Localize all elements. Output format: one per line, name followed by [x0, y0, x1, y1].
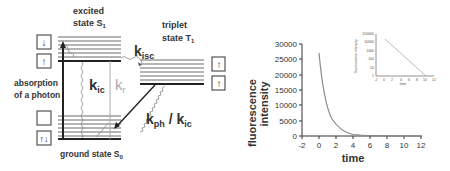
y-axis-label-line1: fluorescence	[246, 79, 258, 147]
spin-box-s0-lower: ↑↓	[37, 131, 51, 145]
svg-text:100: 100	[368, 57, 374, 61]
y-axis-label-line2: intensity	[258, 81, 270, 127]
kic-label: kic	[89, 76, 105, 95]
figure-canvas: excited state S1 triplet state T1 absorp…	[0, 0, 450, 171]
x-tick-label: -2	[298, 141, 306, 150]
kr-label: kr	[115, 76, 126, 95]
x-tick-label: 2	[334, 141, 339, 150]
spin-up-arrow-icon: ↑	[217, 59, 222, 70]
x-tick-label: 0	[317, 141, 322, 150]
y-ticks: 0 5000 10000 15000 20000 25000 30000	[275, 40, 302, 141]
spin-box-s1-upper: ↓	[37, 35, 51, 49]
absorption-label-2: of a photon	[14, 90, 60, 100]
inset-y-axis-label: fluorescence intensity	[354, 39, 358, 73]
inset-y-ticks: 1 10 100 1000 10000 100000	[362, 32, 374, 78]
x-axis-label: time	[342, 152, 365, 164]
s0-levels	[58, 116, 121, 139]
triplet-state-label: triplet	[162, 20, 187, 30]
ground-state-label: ground state S0	[60, 149, 124, 160]
inset-decay-line	[385, 39, 426, 76]
x-ticks: -2 0 2 4 6 8 10 12	[298, 136, 426, 150]
svg-text:-2: -2	[374, 78, 377, 82]
y-tick-label: 25000	[275, 55, 298, 64]
spin-down-arrow-icon: ↓	[42, 37, 47, 48]
y-tick-label: 5000	[279, 117, 297, 126]
y-tick-label: 10000	[275, 101, 298, 110]
spin-box-t1-lower: ↑	[212, 76, 225, 90]
x-tick-label: 10	[400, 141, 409, 150]
svg-text:6: 6	[408, 78, 410, 82]
excited-state-label: excited	[73, 6, 104, 16]
spin-pair-arrows-icon: ↑↓	[40, 134, 49, 144]
decay-chart: fluorescence intensity 0 5000 10000 1500…	[246, 40, 426, 164]
svg-text:2: 2	[391, 78, 393, 82]
svg-text:0: 0	[383, 78, 385, 82]
inset-x-axis-label: time	[400, 82, 407, 86]
inset-log-chart: fluorescence intensity 1 10 100 1000 100…	[354, 32, 436, 86]
kic-wavy-line	[81, 62, 83, 138]
x-tick-label: 4	[351, 141, 356, 150]
x-tick-label: 8	[385, 141, 390, 150]
y-tick-label: 0	[293, 132, 298, 141]
spin-up-arrow-icon: ↑	[217, 78, 222, 89]
spin-box-s1-lower: ↑	[37, 54, 51, 68]
spin-box-s0-upper	[37, 111, 51, 125]
y-tick-label: 20000	[275, 71, 298, 80]
y-tick-label: 15000	[275, 86, 298, 95]
svg-text:10000: 10000	[364, 40, 374, 44]
jablonski-diagram: excited state S1 triplet state T1 absorp…	[14, 6, 225, 160]
kph-kic-label: kph / kic	[146, 111, 192, 129]
svg-text:12: 12	[432, 78, 436, 82]
x-tick-label: 6	[368, 141, 373, 150]
s1-levels	[58, 37, 121, 61]
svg-text:8: 8	[416, 78, 418, 82]
vibrational-relaxation-wavy	[65, 45, 74, 57]
s0-relaxation-wavy	[96, 123, 108, 137]
excited-state-label-2: state S1	[73, 18, 107, 29]
x-tick-label: 12	[417, 141, 426, 150]
triplet-state-label-2: state T1	[162, 33, 195, 44]
spin-box-t1-upper: ↑	[212, 57, 225, 71]
absorption-label: absorption	[14, 78, 58, 88]
t1-levels	[140, 60, 204, 84]
svg-text:10: 10	[370, 66, 374, 70]
kisc-label: kisc	[134, 43, 154, 61]
spin-up-arrow-icon: ↑	[42, 56, 47, 67]
svg-text:1000: 1000	[366, 49, 374, 53]
y-tick-label: 30000	[275, 40, 298, 49]
svg-text:10: 10	[423, 78, 427, 82]
svg-text:100000: 100000	[362, 32, 374, 36]
